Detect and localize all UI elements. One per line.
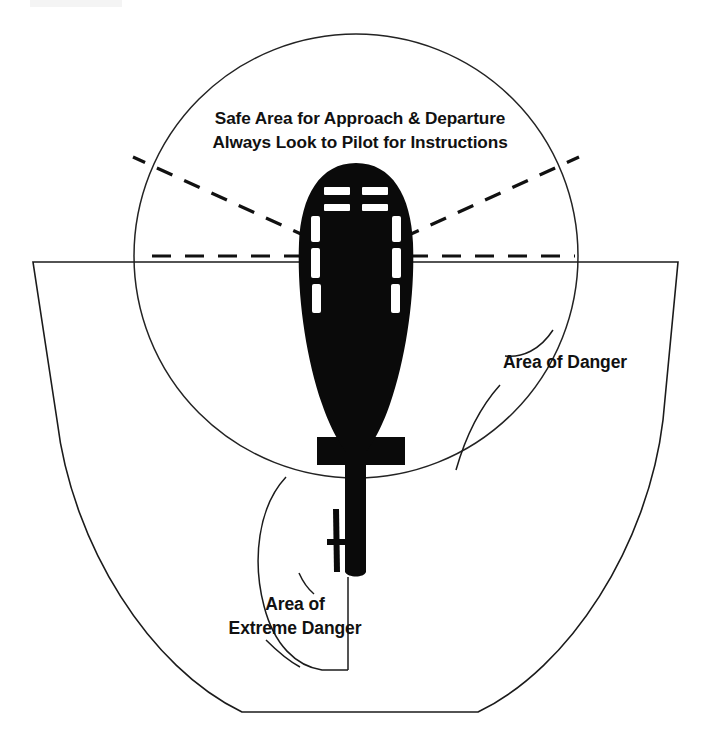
- extreme-danger-boundary: [258, 477, 348, 670]
- cockpit-window-right-lower: [362, 204, 388, 211]
- cockpit-window-left-lower: [324, 204, 350, 211]
- cockpit-window-left-upper: [324, 187, 350, 195]
- helicopter-safety-diagram: Safe Area for Approach & Departure Alway…: [0, 0, 704, 743]
- cabin-window-right-3: [391, 284, 400, 313]
- helicopter-silhouette: [299, 163, 414, 577]
- leader-line-extreme-danger-lower: [266, 640, 300, 667]
- area-of-danger-label: Area of Danger: [503, 352, 627, 372]
- safe-area-label-line2: Always Look to Pilot for Instructions: [212, 132, 507, 152]
- extreme-danger-label-line2: Extreme Danger: [229, 618, 362, 638]
- leader-line-extreme-danger-upper: [299, 573, 314, 594]
- cockpit-window-right-upper: [362, 187, 388, 195]
- leader-line-area-of-danger-lower: [456, 385, 500, 470]
- area-of-extreme-danger-zone: [258, 477, 348, 670]
- tail-rotor-hub: [327, 539, 349, 545]
- cabin-window-left-3: [312, 284, 321, 313]
- cabin-window-right-2: [392, 248, 401, 278]
- safe-area-label-line1: Safe Area for Approach & Departure: [215, 108, 505, 128]
- cabin-window-left-2: [311, 248, 320, 278]
- cabin-window-left-1: [311, 216, 320, 242]
- diagram-root: Safe Area for Approach & Departure Alway…: [0, 0, 704, 743]
- scan-artifact: [30, 0, 122, 7]
- cabin-window-right-1: [392, 216, 401, 242]
- extreme-danger-label-line1: Area of: [265, 594, 325, 614]
